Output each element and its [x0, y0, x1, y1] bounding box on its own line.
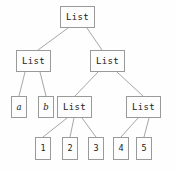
tree-diagram: ListListListabListList12345 [0, 0, 176, 170]
tree-node-a: a [11, 96, 27, 118]
tree-node-label: 5 [141, 144, 146, 153]
tree-edge-r1-to-r2 [117, 72, 143, 96]
tree-node-n5: 5 [136, 137, 152, 160]
tree-edge-root-to-l1 [38, 28, 68, 50]
tree-node-label: List [22, 57, 45, 66]
tree-edge-l2-to-n1 [43, 118, 67, 137]
tree-node-label: List [63, 103, 86, 112]
tree-node-label: a [16, 103, 21, 112]
tree-node-n1: 1 [35, 137, 51, 160]
tree-node-root: List [60, 6, 95, 28]
tree-node-r2: List [126, 96, 161, 118]
tree-node-label: List [96, 57, 119, 66]
tree-node-n3: 3 [88, 137, 104, 160]
tree-edge-r1-to-l2 [75, 72, 98, 96]
tree-node-r1: List [90, 50, 125, 72]
tree-edge-l1-to-b [40, 72, 46, 96]
tree-node-label: List [66, 13, 89, 22]
tree-node-n2: 2 [62, 137, 78, 160]
tree-node-label: 1 [40, 144, 45, 153]
tree-node-label: 3 [93, 144, 98, 153]
tree-node-n4: 4 [113, 137, 129, 160]
tree-node-label: b [43, 103, 48, 112]
tree-node-label: List [132, 103, 155, 112]
tree-edge-l2-to-n2 [70, 118, 74, 137]
tree-node-l1: List [16, 50, 51, 72]
tree-edge-r2-to-n4 [121, 118, 138, 137]
tree-edge-r2-to-n5 [144, 118, 149, 137]
tree-edge-root-to-r1 [87, 28, 102, 50]
tree-node-b: b [38, 96, 54, 118]
tree-edge-l2-to-n3 [82, 118, 96, 137]
tree-node-l2: List [57, 96, 92, 118]
tree-node-label: 2 [67, 144, 72, 153]
tree-node-label: 4 [118, 144, 123, 153]
tree-edge-l1-to-a [19, 72, 25, 96]
